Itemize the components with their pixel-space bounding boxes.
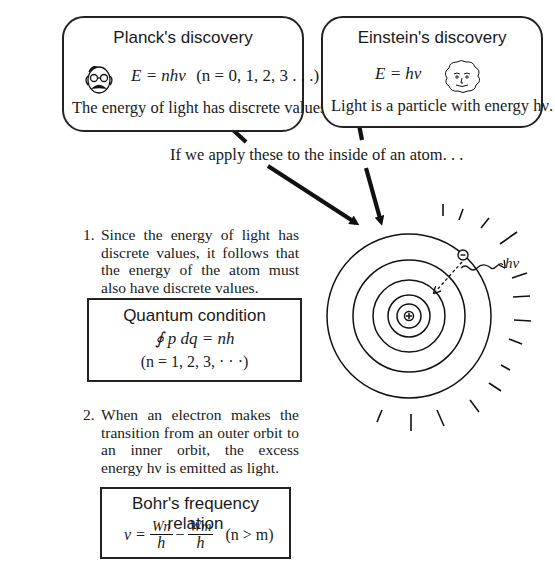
planck-arrow [268,166,356,223]
list-item-number: 1. [83,226,101,296]
planck-portrait-icon [81,62,117,96]
einstein-arrow [366,168,381,222]
quantum-condition-range: (n = 1, 2, 3, · · ·) [89,353,300,371]
planck-formula: E = nhν [131,66,186,85]
bohr-frequency-formula: ν = Wn h − Wm h (n > m) [124,519,274,550]
einstein-title: Einstein's discovery [323,28,541,48]
quantum-condition-formula: ∮ p dq = nh [89,328,300,349]
quantum-condition-box: Quantum condition ∮ p dq = nh (n = 1, 2,… [87,298,302,382]
planck-title: Planck's discovery [64,28,302,48]
bohr-frequency-box: Bohr's frequency relation ν = Wn h − Wm … [100,487,291,559]
bohr-condition: (n > m) [225,526,273,544]
planck-discovery-box: Planck's discovery E = nhν (n = 0, 1, 2,… [62,16,304,132]
list-item-text: Since the energy of light has discrete v… [101,226,299,296]
electron-icon [458,250,468,260]
photon-wave-icon [461,264,503,270]
einstein-discovery-box: Einstein's discovery E = hν Light is a p… [321,16,543,128]
planck-caption: The energy of light has discrete values. [72,98,331,118]
einstein-portrait-icon [441,60,485,94]
minus-sign: − [176,526,185,544]
list-item-text: When an electron makes the transition fr… [101,406,299,476]
fraction-2-numerator: Wm [188,519,214,535]
list-item-1: 1. Since the energy of light has discret… [83,226,299,296]
fraction-1-denominator: h [157,535,165,550]
list-item-number: 2. [83,406,101,476]
fraction-2-denominator: h [197,535,205,550]
bohr-lhs: ν = [124,526,146,544]
quantum-condition-title: Quantum condition [89,306,300,326]
fraction-2: Wm h [188,519,214,550]
transition-arrow [436,262,462,291]
fraction-1: Wn h [150,519,173,550]
fraction-1-numerator: Wn [150,519,173,535]
einstein-formula: E = hν [375,64,421,84]
connector-arrows [220,118,381,223]
einstein-caption: Light is a particle with energy hν. [331,96,553,116]
bridge-text: If we apply these to the inside of an at… [170,145,463,165]
photon-label: hν [505,255,519,272]
list-item-2: 2. When an electron makes the transition… [83,406,299,476]
planck-formula-condition: (n = 0, 1, 2, 3 . . .) [196,66,319,85]
